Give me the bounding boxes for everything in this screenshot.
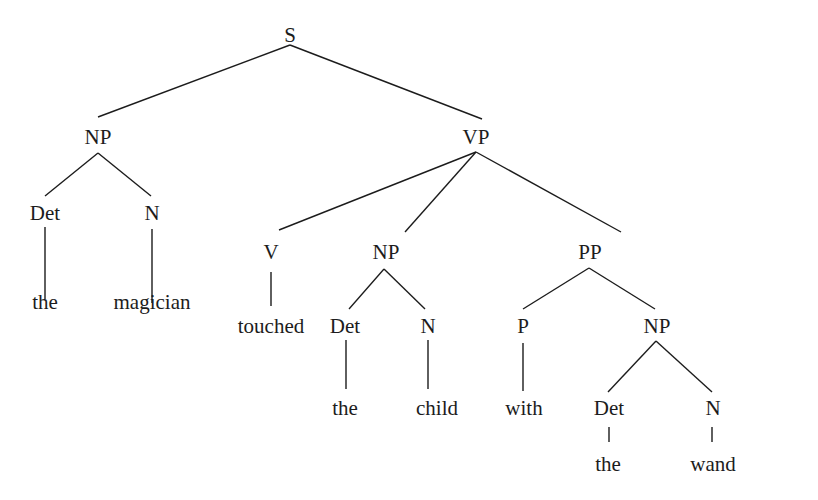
word-with: with (505, 398, 542, 419)
word-wand: wand (690, 454, 736, 475)
node-s: S (284, 25, 296, 46)
node-np-subject: NP (85, 127, 112, 148)
syntax-tree-diagram: S NP VP Det N the magician V touched NP … (0, 0, 818, 500)
edge-vp-pp (476, 152, 621, 232)
word-touched: touched (238, 316, 304, 337)
node-n-object: N (420, 316, 435, 337)
node-n-subject: N (144, 203, 159, 224)
node-det-subject: Det (30, 203, 60, 224)
edge-vp-np2 (405, 152, 476, 232)
node-v: V (263, 242, 278, 263)
edge-np3-n3 (656, 341, 712, 392)
node-np-object: NP (373, 242, 400, 263)
node-p: P (517, 316, 529, 337)
edge-np1-n1 (98, 153, 151, 196)
word-magician: magician (114, 292, 191, 313)
node-det-pp: Det (594, 398, 624, 419)
edge-np1-det1 (45, 153, 98, 196)
edge-s-vp (290, 45, 482, 119)
node-n-pp: N (705, 398, 720, 419)
node-det-object: Det (330, 316, 360, 337)
word-the-1: the (32, 292, 58, 313)
node-vp: VP (463, 127, 490, 148)
edge-s-np1 (98, 45, 290, 117)
node-np-pp: NP (644, 316, 671, 337)
word-the-2: the (332, 398, 358, 419)
word-the-3: the (595, 454, 621, 475)
edge-pp-np3 (589, 268, 655, 309)
tree-edges (0, 0, 818, 500)
word-child: child (416, 398, 458, 419)
edge-np2-n2 (384, 269, 425, 309)
node-pp: PP (578, 242, 601, 263)
edge-pp-p (523, 268, 589, 309)
edge-np2-det2 (349, 269, 384, 309)
edge-vp-v (279, 152, 476, 230)
edge-np3-det3 (608, 341, 656, 392)
